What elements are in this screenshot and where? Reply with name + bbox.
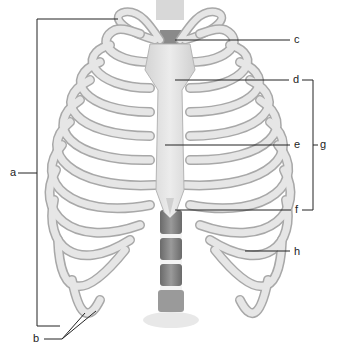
sternum xyxy=(145,44,195,218)
label-d: d xyxy=(293,74,299,85)
label-h: h xyxy=(294,246,300,257)
rib-cage-diagram xyxy=(0,0,340,355)
label-e: e xyxy=(294,139,300,150)
label-c: c xyxy=(294,34,300,45)
label-b: b xyxy=(33,333,39,344)
label-g: g xyxy=(320,139,326,150)
label-f: f xyxy=(295,204,298,215)
label-a: a xyxy=(10,167,16,178)
